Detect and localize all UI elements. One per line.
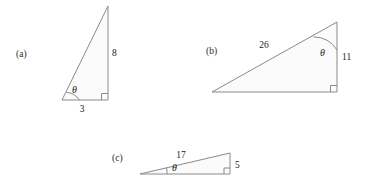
triangle-c-vertical-side-label: 5 [235,160,240,170]
triangle-b-shape [212,22,337,92]
triangles-figure: θ 8 3 (a) θ 26 11 (b) θ 17 [0,0,367,186]
triangle-a-group: θ 8 3 (a) [16,6,117,114]
triangle-b-group: θ 26 11 (b) [206,22,351,92]
triangle-a-theta-label: θ [72,84,77,95]
triangle-a-vertical-side-label: 8 [112,48,117,58]
triangle-a-shape [62,6,108,100]
figure-canvas: θ 8 3 (a) θ 26 11 (b) θ 17 [0,0,367,186]
triangle-c-theta-label: θ [172,162,177,173]
triangle-b-vertical-side-label: 11 [342,52,351,62]
triangle-b-caption: (b) [206,46,217,57]
triangle-b-hypotenuse-label: 26 [259,40,269,50]
triangle-c-caption: (c) [112,153,123,164]
triangle-c-hypotenuse-label: 17 [176,150,186,160]
triangle-a-caption: (a) [16,49,27,60]
triangle-a-horizontal-side-label: 3 [80,104,85,114]
triangle-b-theta-label: θ [320,47,325,58]
triangle-c-group: θ 17 5 (c) [112,150,240,174]
